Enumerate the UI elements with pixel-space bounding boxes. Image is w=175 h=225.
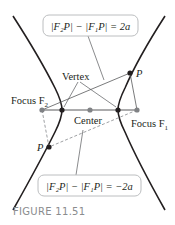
focus-f2-subscript: 2 <box>45 101 49 109</box>
figure-caption: FIGURE 11.51 <box>13 206 85 217</box>
upper-equation-leader <box>88 36 104 80</box>
lower-equation-leader <box>76 130 83 175</box>
vertex-leader-left <box>64 82 78 107</box>
right-vertex-point <box>115 107 120 112</box>
focus-f1-label: Focus F1 <box>131 118 169 132</box>
left-vertex-point <box>59 107 64 112</box>
focus-f1-text: Focus F <box>131 118 165 129</box>
focus-f2-text: Focus F <box>11 95 45 106</box>
center-label: Center <box>74 115 102 126</box>
lower-p-point <box>46 144 51 149</box>
hyperbola-diagram: |F₂P| − |F₁P| = 2a |F₂P| − |F₁P| = −2a V… <box>0 0 175 225</box>
vertex-label: Vertex <box>62 71 90 82</box>
vertex-leader-right <box>80 82 116 107</box>
center-point <box>87 107 92 112</box>
lower-equation-text: |F₂P| − |F₁P| = −2a <box>46 181 133 192</box>
lower-p-label: P <box>36 142 44 153</box>
upper-p-point <box>127 70 132 75</box>
focus-f2-label: Focus F2 <box>11 95 49 109</box>
upper-p-label: P <box>135 68 143 79</box>
upper-equation-text: |F₂P| − |F₁P| = 2a <box>51 21 131 32</box>
focus-f1-point <box>134 107 139 112</box>
focus-f1-subscript: 1 <box>165 124 169 132</box>
